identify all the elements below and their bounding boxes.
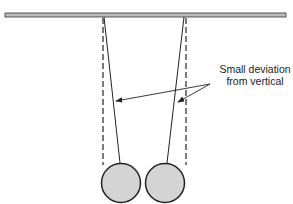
annotation-line-1: Small deviation [210,63,293,75]
deviation-annotation: Small deviation from vertical [210,63,293,87]
pendulum-diagram [0,0,293,204]
left-bob [102,164,141,203]
right-bob [146,164,185,203]
support-bar [5,13,286,17]
left-string [104,17,120,163]
annotation-line-2: from vertical [210,75,293,87]
arrow-to-left-string [116,84,210,101]
